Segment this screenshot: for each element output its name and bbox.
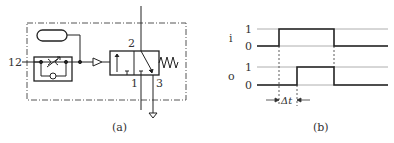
timing-diagram bbox=[257, 29, 388, 106]
exhaust-triangle-icon bbox=[149, 113, 157, 118]
o-level-0-label: 0 bbox=[245, 79, 252, 92]
port-label-2: 2 bbox=[128, 37, 135, 50]
caption-b: (b) bbox=[313, 121, 329, 134]
air-reservoir bbox=[37, 30, 67, 41]
signal-i-waveform bbox=[257, 29, 388, 46]
diagram-canvas: 12 2 1 3 (a) i o 1 0 1 0 bbox=[0, 0, 394, 143]
port-label-12: 12 bbox=[8, 56, 22, 69]
port-label-1: 1 bbox=[131, 77, 138, 90]
signal-o-waveform bbox=[257, 67, 388, 85]
pilot-triangle-icon bbox=[93, 58, 102, 66]
i-level-1-label: 1 bbox=[245, 23, 252, 36]
i-level-0-label: 0 bbox=[245, 40, 252, 53]
spring-icon bbox=[159, 57, 178, 68]
pneumatic-circuit bbox=[22, 6, 186, 118]
delay-label: Δt bbox=[280, 95, 293, 106]
caption-a: (a) bbox=[112, 121, 127, 134]
port-label-3: 3 bbox=[156, 77, 163, 90]
check-valve-ball-icon bbox=[50, 73, 56, 79]
signal-o-label: o bbox=[228, 70, 235, 83]
signal-i-label: i bbox=[229, 32, 233, 45]
o-level-1-label: 1 bbox=[245, 61, 252, 74]
